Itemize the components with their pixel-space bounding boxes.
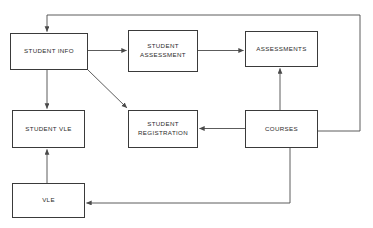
node-student-vle-label: STUDENT VLE: [23, 125, 73, 134]
connector-student-info-to-student-registration: [88, 70, 127, 108]
node-student-registration[interactable]: STUDENT REGISTRATION: [128, 110, 198, 148]
node-student-info-label: STUDENT INFO: [22, 47, 76, 56]
node-vle-label: VLE: [40, 196, 57, 205]
connector-courses-to-vle: [87, 148, 291, 203]
node-vle[interactable]: VLE: [12, 183, 85, 218]
node-courses[interactable]: COURSES: [245, 110, 318, 148]
node-student-vle[interactable]: STUDENT VLE: [12, 110, 85, 148]
node-courses-label: COURSES: [263, 125, 300, 134]
node-student-assessment[interactable]: STUDENT ASSESSMENT: [128, 30, 198, 72]
node-assessments-label: ASSESSMENTS: [254, 45, 308, 54]
node-assessments[interactable]: ASSESSMENTS: [245, 31, 318, 67]
node-student-assessment-label: STUDENT ASSESSMENT: [138, 42, 188, 60]
diagram-canvas: STUDENT INFO STUDENT ASSESSMENT ASSESSME…: [0, 0, 373, 228]
node-student-registration-label: STUDENT REGISTRATION: [136, 120, 190, 138]
node-student-info[interactable]: STUDENT INFO: [10, 33, 88, 70]
